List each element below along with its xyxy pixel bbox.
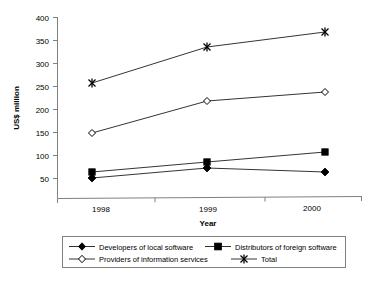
series-distributors-point-2000 — [322, 149, 328, 155]
x-axis-title: Year — [200, 219, 217, 228]
x-tick-label-2000: 2000 — [303, 204, 321, 213]
line-chart: 400 350 300 250 200 150 100 50 1998 1999… — [0, 0, 372, 283]
y-tick-label-300: 300 — [36, 60, 50, 69]
x-tick-label-1998: 1998 — [92, 205, 110, 214]
y-tick-label-200: 200 — [36, 106, 50, 115]
y-tick-label-100: 100 — [36, 152, 50, 161]
x-tick-label-1999: 1999 — [199, 205, 217, 214]
y-tick-label-50: 50 — [40, 175, 49, 184]
legend-label-2: Distributors of foreign software — [235, 243, 337, 252]
chart-svg: 400 350 300 250 200 150 100 50 1998 1999… — [0, 0, 372, 283]
legend-label-3: Providers of information services — [99, 255, 208, 264]
legend-label-4: Total — [261, 255, 277, 264]
y-axis-title: US$ million — [12, 86, 21, 130]
y-tick-label-350: 350 — [36, 37, 50, 46]
y-tick-label-250: 250 — [36, 83, 50, 92]
y-tick-label-400: 400 — [36, 14, 50, 23]
chart-background — [0, 0, 372, 283]
legend-label-1: Developers of local software — [99, 243, 193, 252]
y-tick-label-150: 150 — [36, 129, 50, 138]
filled-square-icon — [215, 243, 222, 250]
